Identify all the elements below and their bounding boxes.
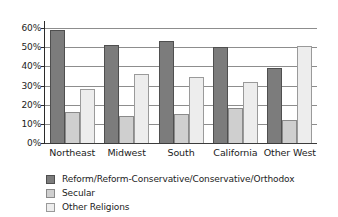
legend-item: Other Religions <box>46 200 326 214</box>
bar-chart-figure: 0%10%20%30%40%50%60% NortheastMidwestSou… <box>0 0 338 217</box>
bar <box>189 77 204 143</box>
series-0-swatch <box>46 175 55 184</box>
bar <box>134 74 149 143</box>
series-2-swatch <box>46 203 55 212</box>
gridline-0% <box>45 143 317 144</box>
y-tick-label: 30% <box>0 81 41 91</box>
plot-area <box>45 28 317 143</box>
x-tick-label: Other West <box>263 147 317 161</box>
bar <box>119 116 134 143</box>
legend-label: Secular <box>62 188 95 198</box>
bar-group <box>99 28 153 143</box>
y-tick-label: 0% <box>0 138 41 148</box>
bar <box>282 120 297 143</box>
y-tick-label: 20% <box>0 100 41 110</box>
bar-groups <box>45 28 317 143</box>
bar <box>297 46 312 143</box>
legend-item: Secular <box>46 186 326 200</box>
y-axis-tick-labels: 0%10%20%30%40%50%60% <box>0 28 41 143</box>
x-tick-label: Northeast <box>45 147 99 161</box>
bar-group <box>263 28 317 143</box>
legend-label: Other Religions <box>62 202 129 212</box>
x-tick-label: California <box>208 147 262 161</box>
bar <box>213 47 228 143</box>
bar-group <box>45 28 99 143</box>
bar <box>80 89 95 143</box>
y-tick-label: 40% <box>0 61 41 71</box>
series-1-swatch <box>46 189 55 198</box>
legend-label: Reform/Reform-Conservative/Conservative/… <box>62 174 294 184</box>
bar <box>65 112 80 143</box>
chart-legend: Reform/Reform-Conservative/Conservative/… <box>46 172 326 214</box>
bar <box>228 108 243 143</box>
bar <box>159 41 174 143</box>
x-tick-label: South <box>154 147 208 161</box>
bar <box>243 82 258 143</box>
bar <box>50 30 65 143</box>
bar-group <box>208 28 262 143</box>
bar-group <box>154 28 208 143</box>
y-tick-label: 10% <box>0 119 41 129</box>
y-tick-label: 60% <box>0 23 41 33</box>
legend-item: Reform/Reform-Conservative/Conservative/… <box>46 172 326 186</box>
x-tick-label: Midwest <box>99 147 153 161</box>
bar <box>174 114 189 143</box>
bar <box>104 45 119 143</box>
bar <box>267 68 282 143</box>
y-tick-label: 50% <box>0 42 41 52</box>
x-axis-tick-labels: NortheastMidwestSouthCaliforniaOther Wes… <box>45 147 317 161</box>
